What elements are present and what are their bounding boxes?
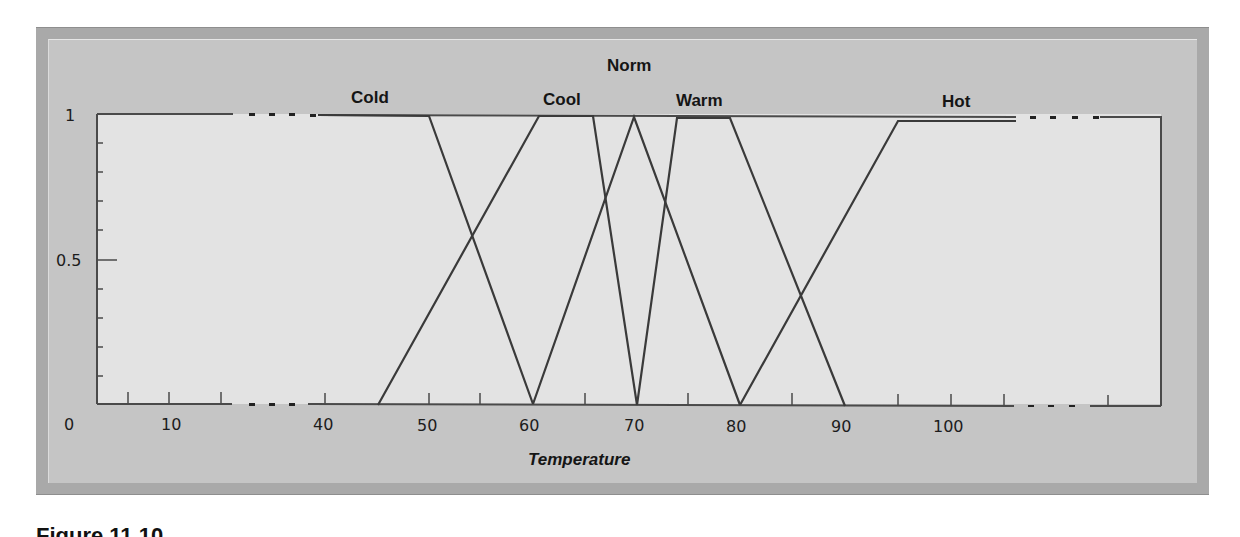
x-axis-title: Temperature	[528, 450, 630, 469]
label-cool: Cool	[543, 90, 581, 109]
figure-caption: Figure 11.10	[36, 523, 163, 537]
x-tick-90: 90	[831, 417, 851, 436]
label-hot: Hot	[942, 92, 971, 111]
x-tick-50: 50	[417, 416, 437, 435]
plot-area	[97, 114, 1161, 404]
y-tick-05: 0.5	[56, 251, 81, 270]
fuzzy-membership-chart: Cold Cool Norm Warm Hot 1 0.5 0 10 40 50…	[0, 0, 1240, 537]
x-tick-100: 100	[933, 417, 964, 436]
x-tick-60: 60	[519, 416, 539, 435]
y-tick-1: 1	[65, 106, 75, 125]
label-norm: Norm	[607, 56, 651, 75]
x-axis-middle	[308, 404, 1014, 406]
x-tick-80: 80	[726, 417, 746, 436]
x-tick-70: 70	[624, 416, 644, 435]
label-warm: Warm	[676, 91, 723, 110]
x-tick-10: 10	[161, 415, 181, 434]
x-tick-0: 0	[64, 415, 74, 434]
label-cold: Cold	[351, 88, 389, 107]
x-tick-40: 40	[313, 415, 333, 434]
